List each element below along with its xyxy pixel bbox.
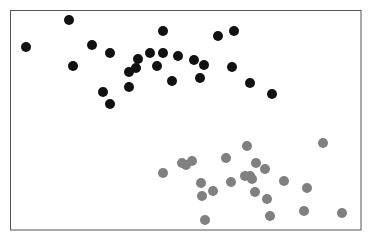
cluster-gray-point [318,138,328,148]
cluster-black-point [152,61,162,71]
cluster-black-point [213,31,223,41]
cluster-black-point [167,76,177,86]
scatter-chart [0,0,368,242]
cluster-black-point [98,87,108,97]
cluster-gray-point [221,153,231,163]
cluster-gray-point [265,211,275,221]
cluster-black-point [145,48,155,58]
cluster-black-point [21,42,31,52]
cluster-black-point [68,61,78,71]
cluster-gray-point [299,206,309,216]
cluster-black-point [158,26,168,36]
cluster-black-point [158,48,168,58]
cluster-gray-point [302,183,312,193]
cluster-gray-point [196,178,206,188]
cluster-gray-point [337,208,347,218]
plot-frame [11,11,362,231]
cluster-black-point [105,48,115,58]
cluster-gray-point [260,164,270,174]
cluster-gray-point [200,215,210,225]
cluster-black-point [87,40,97,50]
cluster-black-point [131,63,141,73]
cluster-gray-point [262,194,272,204]
cluster-gray-point [187,156,197,166]
cluster-black-point [189,55,199,65]
cluster-black-point [199,60,209,70]
cluster-gray-point [242,141,252,151]
cluster-gray-point [250,187,260,197]
cluster-black-point [133,54,143,64]
cluster-gray-point [247,174,257,184]
cluster-gray-point [158,168,168,178]
cluster-gray-point [226,177,236,187]
cluster-black-point [267,89,277,99]
cluster-black-point [229,26,239,36]
cluster-black-point [245,78,255,88]
cluster-black-point [227,62,237,72]
cluster-gray-point [197,191,207,201]
cluster-gray-point [279,176,289,186]
cluster-black-point [64,15,74,25]
cluster-black-point [124,82,134,92]
cluster-gray-point [208,186,218,196]
cluster-black-point [105,99,115,109]
cluster-black-point [195,73,205,83]
cluster-black-point [173,51,183,61]
cluster-gray-point [251,158,261,168]
